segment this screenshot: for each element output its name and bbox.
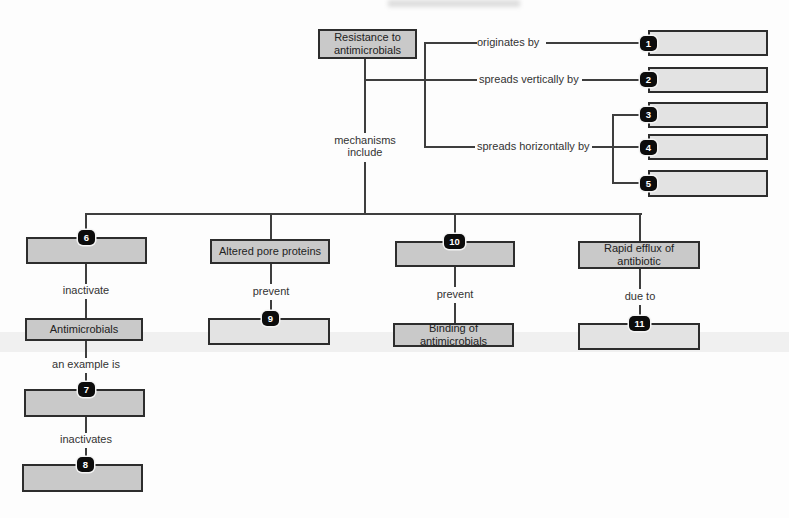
connector-originates-left: [425, 42, 477, 44]
answer-badge-6: 6: [78, 230, 95, 245]
answer-badge-11: 11: [629, 316, 650, 331]
connector-col1-b: [85, 299, 87, 318]
answer-badge-7: 7: [78, 382, 95, 397]
answer-badge-9: 9: [262, 311, 279, 326]
edge-label-originates-by: originates by: [477, 36, 539, 48]
connector-bracket-stub-3: [614, 114, 640, 116]
concept-box-rapid-efflux: Rapid efflux of antibiotic: [578, 241, 700, 269]
answer-badge-4: 4: [640, 140, 657, 155]
concept-map-canvas: Resistance to antimicrobials mechanisms …: [0, 0, 789, 518]
connector-originates-right: [546, 42, 640, 44]
connector-vertically-left: [366, 79, 477, 81]
edge-label-an-example-is: an example is: [36, 358, 136, 370]
answer-box-2: [648, 67, 768, 93]
answer-badge-5: 5: [640, 176, 657, 191]
connector-col2-a: [270, 264, 272, 284]
edge-label-due-to: due to: [590, 290, 690, 302]
connector-col1-a: [85, 264, 87, 284]
answer-badge-10: 10: [444, 234, 465, 249]
scan-artifact-top: [388, 0, 520, 7]
concept-box-altered-pore-proteins: Altered pore proteins: [210, 239, 330, 264]
connector-bracket-vertical: [612, 114, 614, 184]
connector-col1-c: [85, 341, 87, 358]
connector-bracket-stub-5: [614, 182, 640, 184]
connector-col3-b: [454, 303, 456, 323]
answer-badge-3: 3: [640, 107, 657, 122]
answer-box-4: [648, 134, 768, 160]
connector-right-branch-vertical: [424, 42, 426, 148]
answer-badge-1: 1: [640, 36, 657, 51]
connector-stem-upper: [364, 59, 366, 133]
concept-box-antimicrobials: Antimicrobials: [25, 318, 143, 341]
edge-label-spreads-horizontally: spreads horizontally by: [477, 140, 590, 152]
edge-label-spreads-vertically: spreads vertically by: [479, 73, 579, 85]
stem-edge-label: mechanisms include: [323, 134, 407, 158]
connector-col3-a: [454, 267, 456, 287]
answer-badge-2: 2: [640, 72, 657, 87]
connector-stem-lower: [364, 162, 366, 215]
connector-col1-e: [85, 417, 87, 433]
connector-horizontally-left: [425, 146, 475, 148]
connector-col4-a: [639, 269, 641, 289]
edge-label-prevent-2: prevent: [405, 288, 505, 300]
connector-vertically-right: [582, 79, 640, 81]
answer-box-5: [648, 170, 768, 197]
connector-horizontally-right: [592, 146, 640, 148]
edge-label-prevent-1: prevent: [221, 285, 321, 297]
root-concept-box: Resistance to antimicrobials: [318, 29, 417, 59]
connector-mechanisms-horizontal: [85, 213, 642, 215]
concept-box-binding-of-antimicrobials: Binding of antimicrobials: [393, 323, 514, 347]
connector-col4-drop: [639, 214, 641, 241]
answer-box-1: [648, 30, 768, 56]
answer-badge-8: 8: [77, 457, 94, 472]
edge-label-inactivates: inactivates: [36, 433, 136, 445]
answer-box-3: [648, 102, 768, 128]
connector-col2-drop: [270, 214, 272, 239]
edge-label-inactivate: inactivate: [36, 284, 136, 296]
